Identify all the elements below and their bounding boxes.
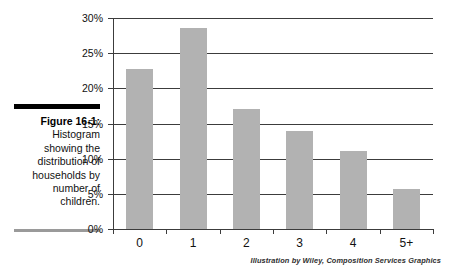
x-axis-tick-mark	[166, 229, 167, 234]
gridline	[113, 88, 433, 89]
x-axis-tick-label: 5+	[399, 236, 413, 250]
y-axis-tick-label: 20%	[70, 82, 103, 94]
gridline	[113, 18, 433, 19]
figure-container: Figure 16-1: Histogram showing the distr…	[0, 0, 461, 278]
bar	[233, 109, 260, 229]
x-axis-tick-label: 1	[190, 236, 197, 250]
bar	[393, 189, 420, 229]
bar	[286, 131, 313, 229]
y-axis-tick-label: 5%	[70, 188, 103, 200]
y-axis-tick-label: 10%	[70, 153, 103, 165]
x-axis-tick-label: 3	[296, 236, 303, 250]
y-axis-tick-label: 30%	[70, 12, 103, 24]
x-axis-tick-label: 4	[350, 236, 357, 250]
illustration-credit: Illustration by Wiley, Composition Servi…	[0, 256, 441, 265]
x-axis-tick-mark	[433, 229, 434, 234]
y-axis-labels: 0%5%10%15%20%25%30%	[70, 0, 103, 278]
x-axis-tick-mark	[220, 229, 221, 234]
bar	[126, 69, 153, 229]
gridline	[113, 124, 433, 125]
y-axis-tick-label: 15%	[70, 118, 103, 130]
y-axis-tick-label: 25%	[70, 47, 103, 59]
bar	[180, 28, 207, 229]
gridline	[113, 53, 433, 54]
y-axis-tick-label: 0%	[70, 223, 103, 235]
gridline	[113, 159, 433, 160]
x-axis-tick-mark	[113, 229, 114, 234]
x-axis-tick-label: 0	[136, 236, 143, 250]
x-axis-tick-label: 2	[243, 236, 250, 250]
x-axis-tick-mark	[380, 229, 381, 234]
bar	[340, 151, 367, 229]
x-axis-tick-mark	[273, 229, 274, 234]
gridline	[113, 194, 433, 195]
x-axis-tick-mark	[326, 229, 327, 234]
histogram-chart: 0%5%10%15%20%25%30% 012345+	[0, 0, 461, 278]
